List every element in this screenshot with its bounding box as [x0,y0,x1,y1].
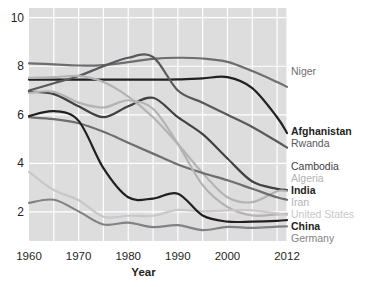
legend-label-algeria[interactable]: Algeria [291,173,324,184]
legend-label-germany[interactable]: Germany [291,233,334,244]
x-axis-tick-label: 1990 [158,250,198,262]
legend-label-niger[interactable]: Niger [291,66,316,77]
x-axis-tick-label: 1970 [59,250,99,262]
fertility-line-chart: 246810196019701980199020002012YearNigerA… [0,0,371,287]
x-axis-tick-label: 1960 [9,250,49,262]
x-axis-tick-label: 2012 [267,250,307,262]
y-axis-tick-label: 4 [0,156,24,170]
y-axis-tick-label: 10 [0,11,24,25]
y-axis-tick-label: 2 [0,205,24,219]
legend-label-cambodia[interactable]: Cambodia [291,161,339,172]
x-axis-tick-label: 2000 [207,250,247,262]
x-axis-tick-label: 1980 [108,250,148,262]
y-axis-tick-label: 8 [0,59,24,73]
legend-label-china[interactable]: China [291,221,320,232]
legend-label-india[interactable]: India [291,185,316,196]
legend-label-afghanistan[interactable]: Afghanistan [291,126,352,137]
legend-label-rwanda[interactable]: Rwanda [291,138,330,149]
legend-label-iran[interactable]: Iran [291,197,309,208]
y-axis-tick-label: 6 [0,108,24,122]
x-axis-title: Year [0,266,287,278]
legend-label-united-states[interactable]: United States [291,209,354,220]
